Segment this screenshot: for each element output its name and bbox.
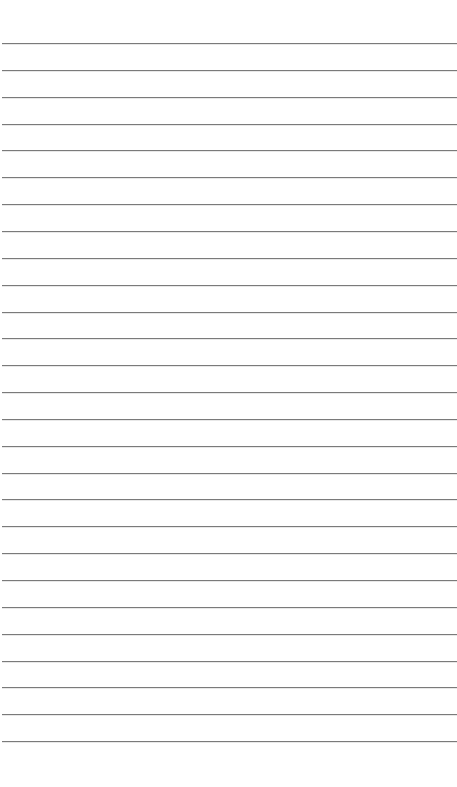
ruled-line [2, 97, 457, 98]
ruled-line [2, 312, 457, 313]
ruled-line [2, 661, 457, 662]
ruled-line [2, 177, 457, 178]
ruled-line [2, 526, 457, 527]
ruled-line [2, 43, 457, 44]
ruled-line [2, 634, 457, 635]
ruled-line [2, 365, 457, 366]
ruled-line [2, 258, 457, 259]
ruled-line [2, 124, 457, 125]
ruled-line [2, 580, 457, 581]
ruled-line [2, 419, 457, 420]
ruled-line [2, 714, 457, 715]
lined-paper-page [0, 0, 457, 787]
ruled-line [2, 231, 457, 232]
ruled-line [2, 338, 457, 339]
ruled-line [2, 687, 457, 688]
ruled-line [2, 70, 457, 71]
ruled-line [2, 392, 457, 393]
ruled-line [2, 741, 457, 742]
ruled-line [2, 473, 457, 474]
ruled-line [2, 499, 457, 500]
ruled-line [2, 446, 457, 447]
ruled-line [2, 150, 457, 151]
ruled-line [2, 204, 457, 205]
ruled-line [2, 285, 457, 286]
ruled-line [2, 607, 457, 608]
ruled-line [2, 553, 457, 554]
